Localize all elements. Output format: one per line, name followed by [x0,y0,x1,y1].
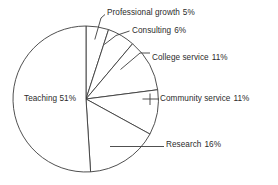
pie-label-teaching-text: Teaching 51% [24,94,76,103]
pie-label-community-service-value: 11% [233,94,249,103]
pie-label-professional-growth: Professional growth5% [107,8,195,18]
pie-label-consulting-text: Consulting [132,26,171,35]
pie-chart: Teaching 51% Professional growth5% Consu… [0,0,278,185]
pie-label-professional-growth-text: Professional growth [107,8,180,17]
pie-label-community-service: Community service11% [160,94,249,104]
pie-label-research: Research16% [166,140,221,150]
pie-label-research-value: 16% [204,140,221,149]
pie-label-college-service-value: 11% [212,53,228,62]
pie-label-consulting-value: 6% [174,26,186,35]
pie-label-teaching: Teaching 51% [24,94,76,104]
pie-label-professional-growth-value: 5% [183,8,195,17]
pie-label-consulting: Consulting6% [132,26,186,36]
pie-label-college-service-text: College service [152,53,209,62]
pie-label-college-service: College service11% [152,53,228,63]
pie-label-community-service-text: Community service [160,94,230,103]
pie-label-research-text: Research [166,140,201,149]
